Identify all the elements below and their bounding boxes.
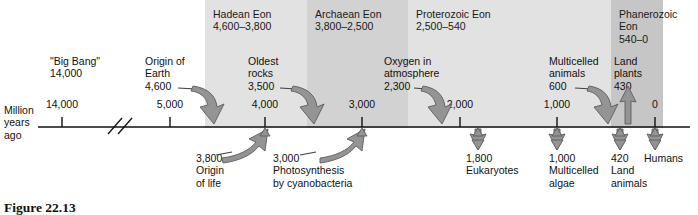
axis-caption: Million years ago xyxy=(4,104,34,141)
arrow-humans xyxy=(647,129,663,150)
event-label-photosynthesis-cyanobacteria: 3,000 Photosynthesis by cyanobacteria xyxy=(273,152,352,189)
event-label-land-animals: 420 Land animals xyxy=(611,152,647,189)
eon-band-hadean-label: Hadean Eon 4,600–3,800 xyxy=(213,8,271,33)
arrow-multicelled-algae xyxy=(549,129,565,150)
tick-label-1000: 1,000 xyxy=(535,98,579,110)
event-label-origin-of-life: 3,800 Origin of life xyxy=(196,152,224,189)
event-label-humans: Humans xyxy=(644,152,683,164)
event-label-land-plants: Land plants 430 xyxy=(614,55,642,92)
arrow-eukaryotes xyxy=(470,129,486,150)
eon-band-proterozoic-label: Proterozoic Eon 2,500–540 xyxy=(416,8,491,33)
arrow-land-animals xyxy=(612,129,628,150)
axis-break-icon xyxy=(108,118,132,134)
event-label-big-bang: "Big Bang" 14,000 xyxy=(50,55,100,80)
tick-label-5000: 5,000 xyxy=(148,98,192,110)
figure-caption: Figure 22.13 xyxy=(4,200,76,215)
event-label-multicelled-animals: Multicelled animals 600 xyxy=(549,55,599,92)
axis-event-markers xyxy=(260,128,660,136)
event-label-origin-of-earth: Origin of Earth 4,600 xyxy=(145,55,185,92)
tick-label-4000: 4,000 xyxy=(243,98,287,110)
tick-label-14000: 14,000 xyxy=(38,98,86,110)
tick-label-0: 0 xyxy=(644,98,666,110)
event-label-oldest-rocks: Oldest rocks 3,500 xyxy=(248,55,278,92)
eon-band-phanerozoic-label: Phanerozoic Eon 540–0 xyxy=(619,8,677,45)
tick-label-3000: 3,000 xyxy=(340,98,384,110)
tick-label-2000: 2,000 xyxy=(438,98,482,110)
event-label-oxygen-in-atmosphere: Oxygen in atmosphere 2,300 xyxy=(384,55,439,92)
eon-band-archaean-label: Archaean Eon 3,800–2,500 xyxy=(315,8,382,33)
event-label-multicelled-algae: 1,000 Multicelled algae xyxy=(549,152,599,189)
figure-timeline: Hadean Eon 4,600–3,800 Archaean Eon 3,80… xyxy=(0,0,698,215)
event-label-eukaryotes: 1,800 Eukaryotes xyxy=(466,152,519,177)
